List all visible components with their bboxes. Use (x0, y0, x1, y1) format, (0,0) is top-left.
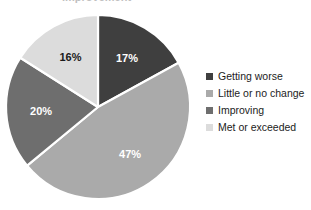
chart-legend: Getting worse Little or no change Improv… (206, 68, 309, 136)
legend-item-little-or-no-change[interactable]: Little or no change (206, 85, 309, 101)
legend-swatch-icon (206, 73, 213, 80)
legend-item-getting-worse[interactable]: Getting worse (206, 68, 309, 84)
legend-swatch-icon (206, 90, 213, 97)
legend-item-label: Improving (218, 105, 264, 116)
pie-chart-figure: improvement 17%47%20%16% Getting worse L… (0, 0, 311, 210)
legend-item-improving[interactable]: Improving (206, 102, 309, 118)
legend-swatch-icon (206, 107, 213, 114)
legend-item-label: Getting worse (218, 71, 283, 82)
pie-slice-data-label: 20% (30, 105, 52, 117)
legend-item-label: Met or exceeded (218, 122, 296, 133)
legend-item-met-or-exceeded[interactable]: Met or exceeded (206, 119, 309, 135)
pie-slice-data-label: 17% (116, 52, 138, 64)
pie-slice-data-label: 47% (119, 148, 141, 160)
pie-slice-data-label: 16% (59, 51, 81, 63)
legend-swatch-icon (206, 124, 213, 131)
legend-item-label: Little or no change (218, 88, 304, 99)
